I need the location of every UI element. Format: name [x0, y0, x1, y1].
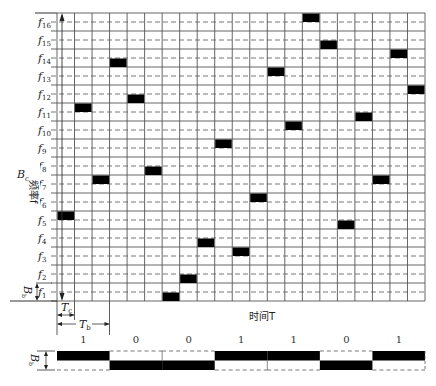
- time-frequency-grid: [51, 13, 425, 301]
- frequency-labels: f1f2f3f4f5f6f7f8f9f10f11f12f13f14f15f16: [37, 16, 52, 300]
- hop-block: [198, 239, 215, 248]
- frequency-label-f4: f4: [37, 232, 47, 246]
- hop-block: [303, 14, 320, 23]
- frequency-label-f9: f9: [37, 142, 47, 156]
- bit-label-6: 1: [396, 334, 402, 345]
- bit-segment-6: [372, 351, 425, 361]
- frequency-label-f12: f12: [37, 88, 51, 102]
- frequency-axis-label: 频率f: [28, 180, 40, 204]
- hop-block: [355, 113, 372, 122]
- hop-block: [373, 176, 390, 185]
- tc-tb-dimensions: Tc Tb: [57, 301, 110, 335]
- bit-segment-3: [215, 351, 268, 361]
- hop-block: [338, 221, 355, 230]
- bit-segment-5: [320, 361, 373, 371]
- bit-segment-2: [162, 361, 215, 371]
- bit-bb-label: Bb: [28, 353, 41, 366]
- tb-label: Tb: [79, 318, 91, 332]
- hop-block: [233, 248, 250, 257]
- bit-label-0: 1: [80, 334, 86, 345]
- bit-bb-arrow: Bb: [28, 351, 55, 370]
- hop-block: [58, 212, 75, 221]
- data-bit-stream: 1001101: [57, 334, 425, 370]
- hop-block: [268, 68, 285, 77]
- hop-block: [285, 122, 302, 131]
- hop-block: [180, 275, 197, 284]
- bit-label-4: 1: [291, 334, 297, 345]
- frequency-label-f14: f14: [37, 52, 52, 66]
- frequency-label-f11: f11: [37, 106, 51, 120]
- hop-block: [145, 167, 162, 176]
- hop-block: [110, 59, 127, 68]
- bit-label-3: 1: [238, 334, 244, 345]
- frequency-label-f13: f13: [37, 70, 51, 84]
- bb-label: Bb: [21, 285, 34, 298]
- frequency-label-f2: f2: [37, 268, 47, 282]
- frequency-label-f5: f5: [37, 214, 47, 228]
- hop-block: [408, 86, 425, 95]
- hop-block: [93, 176, 110, 185]
- time-axis-label: 时间T: [249, 310, 276, 322]
- frequency-label-f1: f1: [37, 286, 47, 300]
- hop-block: [250, 194, 267, 203]
- hop-block: [75, 104, 92, 113]
- bit-segment-4: [267, 351, 320, 361]
- bit-label-2: 0: [185, 334, 191, 345]
- hop-block: [163, 293, 180, 302]
- frequency-label-f15: f15: [37, 34, 51, 48]
- bb-dimension-arrow: Bb: [21, 283, 52, 301]
- bit-label-1: 0: [133, 334, 139, 345]
- frequency-label-f3: f3: [37, 250, 47, 264]
- tc-label: Tc: [61, 301, 72, 315]
- frequency-label-f16: f16: [37, 16, 52, 30]
- hop-block: [390, 50, 407, 59]
- bit-segment-0: [57, 351, 110, 361]
- frequency-label-f10: f10: [37, 124, 51, 138]
- hop-block: [215, 140, 232, 149]
- hop-block: [320, 41, 337, 50]
- bit-segment-1: [110, 361, 163, 371]
- bit-label-5: 0: [343, 334, 349, 345]
- fhss-time-frequency-diagram: f1f2f3f4f5f6f7f8f9f10f11f12f13f14f15f16 …: [0, 0, 436, 386]
- hop-block: [128, 95, 145, 104]
